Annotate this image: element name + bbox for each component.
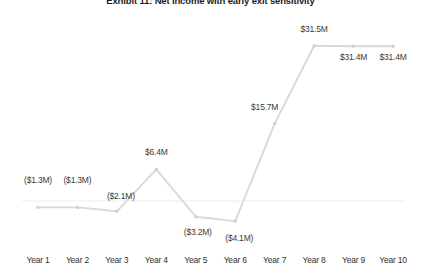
data-point-markers	[36, 44, 394, 223]
data-value-label: ($1.3M)	[24, 175, 52, 185]
data-value-label: $31.4M	[379, 52, 406, 62]
data-value-label: $6.4M	[145, 147, 168, 157]
x-tick-label-2: Year 2	[66, 255, 89, 265]
x-tick-label-8: Year 8	[303, 255, 326, 265]
x-tick-label-5: Year 5	[184, 255, 207, 265]
x-tick-label-1: Year 1	[26, 255, 49, 265]
data-point-marker	[115, 210, 118, 213]
data-value-label: ($4.1M)	[225, 233, 253, 243]
data-point-marker	[36, 206, 39, 209]
data-point-marker	[76, 206, 79, 209]
data-point-marker	[234, 219, 237, 222]
data-value-label: ($1.3M)	[63, 175, 91, 185]
data-value-label: $31.5M	[301, 24, 328, 34]
data-value-label: ($3.2M)	[184, 227, 212, 237]
data-point-marker	[312, 44, 315, 47]
x-tick-label-7: Year 7	[263, 255, 286, 265]
data-value-label: $31.4M	[340, 52, 367, 62]
line-chart-plot	[0, 0, 421, 280]
data-value-label: $15.7M	[251, 102, 278, 112]
data-point-marker	[391, 45, 394, 48]
x-tick-label-10: Year 10	[379, 255, 407, 265]
x-tick-label-9: Year 9	[342, 255, 365, 265]
data-value-label: ($2.1M)	[107, 191, 135, 201]
data-point-marker	[194, 215, 197, 218]
data-point-marker	[352, 45, 355, 48]
data-point-marker	[273, 122, 276, 125]
data-point-marker	[155, 168, 158, 171]
x-tick-label-4: Year 4	[145, 255, 168, 265]
chart-container: Exhibit 11: Net Income with early exit s…	[0, 0, 421, 280]
x-tick-label-6: Year 6	[224, 255, 247, 265]
x-tick-label-3: Year 3	[105, 255, 128, 265]
data-line	[38, 46, 393, 221]
